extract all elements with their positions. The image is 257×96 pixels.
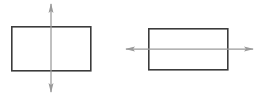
right-panel [125, 29, 254, 70]
symmetry-diagram [0, 0, 257, 96]
vertical-symmetry-axis [49, 3, 54, 93]
left-panel [12, 3, 91, 93]
horizontal-symmetry-axis [125, 47, 254, 52]
figure-canvas [0, 0, 257, 96]
